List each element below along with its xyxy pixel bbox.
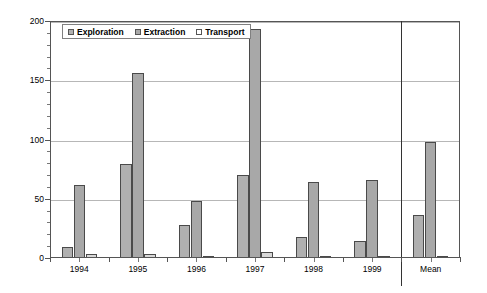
x-tick-1995 bbox=[138, 258, 139, 262]
chart-legend: ExplorationExtractionTransport bbox=[62, 24, 251, 39]
legend-label-transport: Transport bbox=[205, 27, 244, 37]
x-tick-1996 bbox=[196, 258, 197, 262]
y-tick-label-100: 100 bbox=[4, 135, 44, 145]
legend-item-exploration[interactable]: Exploration bbox=[68, 27, 124, 37]
legend-swatch-exploration-icon bbox=[68, 29, 74, 35]
mean-separator-line bbox=[401, 21, 402, 286]
x-tick-1997 bbox=[255, 258, 256, 262]
x-axis-label-1997: 1997 bbox=[246, 264, 265, 274]
bar-1995-extraction[interactable] bbox=[132, 73, 144, 258]
x-axis-label-1995: 1995 bbox=[128, 264, 147, 274]
bar-1998-extraction[interactable] bbox=[308, 182, 320, 258]
y-tick-label-200: 200 bbox=[4, 16, 44, 26]
y-tick-label-150: 150 bbox=[4, 75, 44, 85]
bar-1995-exploration[interactable] bbox=[120, 164, 132, 258]
bar-1997-extraction[interactable] bbox=[249, 29, 261, 258]
bar-group-Mean bbox=[401, 21, 460, 258]
bar-1996-exploration[interactable] bbox=[179, 225, 191, 258]
x-axis-label-1996: 1996 bbox=[187, 264, 206, 274]
bar-group-1999 bbox=[343, 21, 402, 258]
y-axis-tick-labels: 050100150200 bbox=[0, 21, 44, 258]
bar-1999-exploration[interactable] bbox=[354, 241, 366, 258]
bar-1998-exploration[interactable] bbox=[296, 237, 308, 258]
y-tick-label-0: 0 bbox=[4, 253, 44, 263]
x-axis-label-1994: 1994 bbox=[70, 264, 89, 274]
x-tick-1994 bbox=[79, 258, 80, 262]
x-boundary-tick-4 bbox=[284, 258, 285, 262]
x-boundary-tick-7 bbox=[460, 258, 461, 262]
legend-label-exploration: Exploration bbox=[77, 27, 124, 37]
x-tick-1999 bbox=[372, 258, 373, 262]
bar-group-1995 bbox=[109, 21, 168, 258]
legend-swatch-transport-icon bbox=[196, 29, 202, 35]
legend-item-extraction[interactable]: Extraction bbox=[135, 27, 186, 37]
legend-item-transport[interactable]: Transport bbox=[196, 27, 244, 37]
bar-Mean-extraction[interactable] bbox=[425, 142, 437, 258]
x-boundary-tick-6 bbox=[401, 258, 402, 262]
x-boundary-tick-3 bbox=[226, 258, 227, 262]
bar-1996-extraction[interactable] bbox=[191, 201, 203, 258]
bar-group-1998 bbox=[284, 21, 343, 258]
bar-series-layer bbox=[50, 21, 460, 258]
x-tick-Mean bbox=[431, 258, 432, 262]
bar-Mean-exploration[interactable] bbox=[413, 215, 425, 258]
bar-group-1996 bbox=[167, 21, 226, 258]
x-tick-1998 bbox=[314, 258, 315, 262]
y-tick-label-50: 50 bbox=[4, 194, 44, 204]
x-boundary-tick-1 bbox=[109, 258, 110, 262]
bar-1999-extraction[interactable] bbox=[366, 180, 378, 258]
legend-swatch-extraction-icon bbox=[135, 29, 141, 35]
bar-1994-extraction[interactable] bbox=[74, 185, 86, 258]
accidents-bar-chart: Number of accidents 050100150200 1994199… bbox=[0, 0, 487, 293]
x-axis-label-1998: 1998 bbox=[304, 264, 323, 274]
x-boundary-tick-2 bbox=[167, 258, 168, 262]
bar-group-1994 bbox=[50, 21, 109, 258]
x-boundary-tick-5 bbox=[343, 258, 344, 262]
bar-1997-exploration[interactable] bbox=[237, 175, 249, 258]
legend-label-extraction: Extraction bbox=[144, 27, 186, 37]
x-boundary-tick-0 bbox=[50, 258, 51, 262]
bar-group-1997 bbox=[226, 21, 285, 258]
x-axis-label-Mean: Mean bbox=[420, 264, 441, 274]
x-axis-label-1999: 1999 bbox=[363, 264, 382, 274]
